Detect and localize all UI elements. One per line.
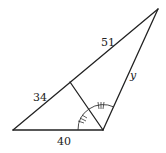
triple-tick-right (98, 102, 104, 109)
angle-bisector (70, 82, 103, 130)
triple-tick-left (78, 115, 87, 123)
label-34: 34 (33, 91, 47, 104)
label-51: 51 (101, 36, 115, 49)
label-y: y (129, 69, 137, 82)
angle-arc-right (89, 105, 114, 109)
triangle-diagram: 51 34 40 y (0, 0, 166, 153)
label-40: 40 (57, 135, 71, 148)
